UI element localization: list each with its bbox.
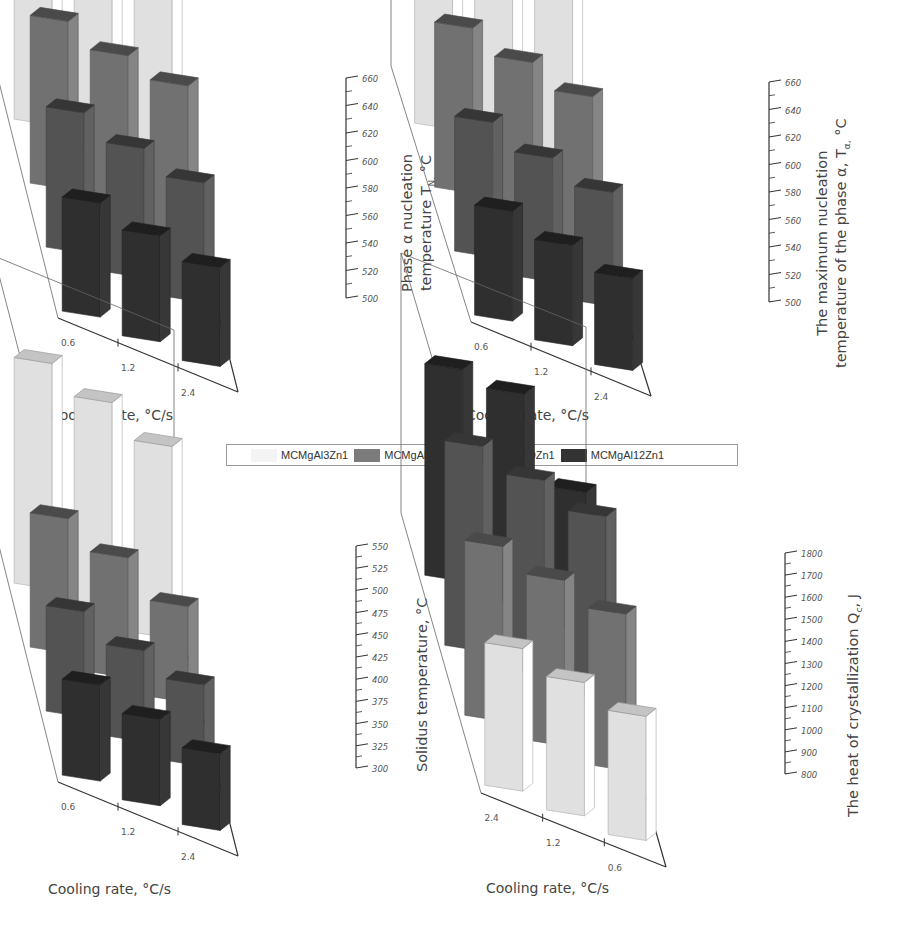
x-tick-label: 2.4 xyxy=(181,388,196,398)
legend-item-al3: MCMgAl3Zn1 xyxy=(251,449,348,462)
y-tick-label: 640 xyxy=(362,102,378,112)
y-tick-label: 1500 xyxy=(801,615,823,625)
bar-MCMgAl3Zn1-1.2 xyxy=(546,668,594,815)
bar-MCMgAl12Zn1-0.6 xyxy=(62,189,110,317)
y-tick-label: 560 xyxy=(785,216,801,226)
y-tick-label: 550 xyxy=(372,542,388,552)
bar-MCMgAl3Zn1-2.4 xyxy=(485,635,533,792)
y-tick-label: 1600 xyxy=(801,593,823,603)
y-tick-label: 800 xyxy=(801,770,817,780)
x-tick-label: 0.6 xyxy=(61,802,76,812)
y-tick-label: 400 xyxy=(372,675,388,685)
x-tick-label: 0.6 xyxy=(61,338,76,348)
legend-swatch xyxy=(561,449,587,462)
legend-item-al12: MCMgAl12Zn1 xyxy=(561,449,664,462)
bar-MCMgAl12Zn1-1.2 xyxy=(122,222,170,342)
x-axis-title-d: Cooling rate, °C/s xyxy=(486,880,609,896)
bar-MCMgAl3Zn1-0.6 xyxy=(608,702,656,840)
x-tick-label: 2.4 xyxy=(594,392,609,402)
y-tick-label: 560 xyxy=(362,212,378,222)
x-tick-label: 1.2 xyxy=(121,363,135,373)
bar-MCMgAl12Zn1-0.6 xyxy=(62,671,110,781)
bar-MCMgAl12Zn1-0.6 xyxy=(475,197,523,321)
y-tick-label: 475 xyxy=(372,609,388,619)
bar-chart-3d-c: 0.61.22.43003253503754004254504755005255… xyxy=(0,480,459,942)
x-tick-label: 0.6 xyxy=(608,863,623,873)
y-tick-label: 1700 xyxy=(801,571,823,581)
bar-MCMgAl12Zn1-1.2 xyxy=(535,231,583,345)
y-tick-label: 375 xyxy=(372,697,388,707)
y-tick-label: 1000 xyxy=(801,726,823,736)
y-tick-label: 620 xyxy=(362,129,378,139)
y-tick-label: 1300 xyxy=(801,660,823,670)
chart-panel-b: (b) 0.61.22.4500520540560580600620640660… xyxy=(459,0,918,440)
bar-MCMgAl12Zn1-1.2 xyxy=(122,705,170,805)
bar-chart-3d-a: 0.61.22.4500520540560580600620640660 xyxy=(0,0,459,440)
y-axis-title-b: The maximum nucleation temperature of th… xyxy=(813,118,857,368)
y-tick-label: 1100 xyxy=(801,704,823,714)
y-tick-label: 620 xyxy=(785,133,801,143)
y-tick-label: 1800 xyxy=(801,549,823,559)
y-tick-label: 600 xyxy=(785,161,801,171)
bar-MCMgAl12Zn1-2.4 xyxy=(595,264,643,370)
bars xyxy=(14,0,230,366)
chart-panel-a: (a) 0.61.22.4500520540560580600620640660… xyxy=(0,0,459,440)
y-tick-label: 520 xyxy=(362,267,378,277)
y-tick-label: 325 xyxy=(372,742,388,752)
y-tick-label: 520 xyxy=(785,271,801,281)
x-tick-label: 2.4 xyxy=(484,813,499,823)
y-tick-label: 580 xyxy=(362,184,378,194)
x-axis-title-c: Cooling rate, °C/s xyxy=(48,881,171,897)
bar-MCMgAl12Zn1-2.4 xyxy=(182,253,230,366)
y-tick-label: 500 xyxy=(785,298,801,308)
y-tick-label: 600 xyxy=(362,157,378,167)
y-tick-label: 1400 xyxy=(801,637,823,647)
y-tick-label: 450 xyxy=(372,631,388,641)
y-tick-label: 350 xyxy=(372,720,388,730)
y-tick-label: 525 xyxy=(372,564,388,574)
y-tick-label: 425 xyxy=(372,653,388,663)
y-tick-label: 300 xyxy=(372,764,388,774)
x-tick-label: 1.2 xyxy=(546,838,560,848)
x-tick-label: 1.2 xyxy=(534,367,548,377)
legend-swatch xyxy=(251,449,277,462)
chart-panel-d: (d) 2.41.20.6800900100011001200130014001… xyxy=(459,480,918,942)
y-tick-label: 1200 xyxy=(801,682,823,692)
y-axis-title-c: Solidus temperature, °C xyxy=(413,598,432,772)
y-tick-label: 900 xyxy=(801,748,817,758)
y-tick-label: 640 xyxy=(785,106,801,116)
x-tick-label: 2.4 xyxy=(181,852,196,862)
y-axis-title-d: The heat of crystallization Qc, J xyxy=(844,594,869,817)
x-tick-label: 1.2 xyxy=(121,827,135,837)
y-tick-label: 660 xyxy=(785,78,801,88)
x-tick-label: 0.6 xyxy=(474,342,489,352)
y-tick-label: 660 xyxy=(362,74,378,84)
y-tick-label: 500 xyxy=(372,586,388,596)
y-tick-label: 580 xyxy=(785,188,801,198)
y-tick-label: 540 xyxy=(785,243,801,253)
chart-panel-c: (c) 0.61.22.4300325350375400425450475500… xyxy=(0,480,459,942)
y-tick-label: 500 xyxy=(362,294,378,304)
bar-MCMgAl12Zn1-2.4 xyxy=(182,740,230,831)
legend-swatch xyxy=(354,449,380,462)
y-tick-label: 540 xyxy=(362,239,378,249)
